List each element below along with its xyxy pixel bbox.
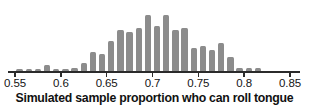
histogram-bar xyxy=(145,15,151,72)
x-axis-line xyxy=(8,71,300,73)
histogram-bar xyxy=(108,41,114,72)
histogram-figure: 0.550.60.650.70.750.80.85 Simulated samp… xyxy=(0,0,309,109)
histogram-bar xyxy=(163,15,169,72)
x-axis-tick-label: 0.75 xyxy=(187,77,209,89)
x-axis-tick-label: 0.55 xyxy=(4,77,26,89)
histogram-bar xyxy=(90,52,96,72)
histogram-bar xyxy=(191,48,197,72)
x-axis-title: Simulated sample proportion who can roll… xyxy=(0,91,309,105)
histogram-bar xyxy=(154,26,160,72)
histogram-bar xyxy=(227,57,233,72)
histogram-bar xyxy=(218,43,224,72)
x-axis-tick-label: 0.7 xyxy=(145,77,161,89)
histogram-bar xyxy=(172,30,178,72)
histogram-bar xyxy=(181,28,187,72)
x-axis-tick-label: 0.8 xyxy=(236,77,252,89)
histogram-bar xyxy=(99,54,105,72)
histogram-bar xyxy=(136,28,142,72)
histogram-bar xyxy=(117,30,123,72)
x-axis-tick-label: 0.85 xyxy=(279,77,301,89)
plot-area xyxy=(0,0,309,72)
x-axis-tick-label: 0.65 xyxy=(96,77,118,89)
histogram-bar xyxy=(126,32,132,72)
x-axis-tick-label: 0.6 xyxy=(53,77,69,89)
histogram-bar xyxy=(200,46,206,72)
histogram-bar xyxy=(209,50,215,72)
